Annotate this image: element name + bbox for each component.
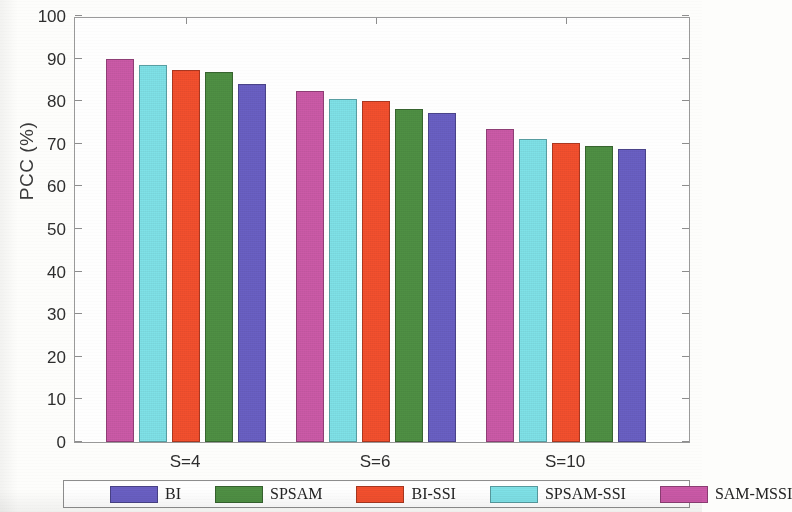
chart-legend: BISPSAMBI-SSISPSAM-SSISAM-MSSI xyxy=(63,480,690,508)
y-tick-right-10 xyxy=(682,398,689,399)
legend-label-sam-mssi: SAM-MSSI xyxy=(715,485,792,503)
plot-area xyxy=(74,17,690,443)
legend-swatch-spsam-ssi-icon xyxy=(490,486,538,503)
y-tick-80 xyxy=(75,100,82,101)
y-tick-label-10: 10 xyxy=(26,390,66,410)
y-tick-right-70 xyxy=(682,143,689,144)
bar-sam-mssi-S4 xyxy=(106,59,134,442)
x-group-label-S6: S=6 xyxy=(360,452,391,472)
y-tick-label-60: 60 xyxy=(26,177,66,197)
y-tick-90 xyxy=(75,58,82,59)
y-tick-label-20: 20 xyxy=(26,348,66,368)
legend-label-spsam-ssi: SPSAM-SSI xyxy=(545,485,626,503)
bar-spsam-S4 xyxy=(205,72,233,442)
y-tick-100 xyxy=(75,15,82,16)
y-tick-label-80: 80 xyxy=(26,92,66,112)
legend-swatch-bi-icon xyxy=(110,486,158,503)
x-tick-top-S4 xyxy=(186,18,187,24)
y-tick-right-90 xyxy=(682,58,689,59)
legend-label-bi-ssi: BI-SSI xyxy=(411,485,455,503)
x-tick-top-S10 xyxy=(566,18,567,24)
y-tick-40 xyxy=(75,271,82,272)
y-tick-60 xyxy=(75,185,82,186)
bar-bi-S6 xyxy=(428,113,456,442)
y-tick-10 xyxy=(75,398,82,399)
legend-item-sam-mssi[interactable]: SAM-MSSI xyxy=(660,485,792,503)
y-tick-label-50: 50 xyxy=(26,220,66,240)
legend-swatch-bi-ssi-icon xyxy=(356,486,404,503)
legend-swatch-sam-mssi-icon xyxy=(660,486,708,503)
bar-bi-ssi-S10 xyxy=(552,143,580,442)
y-tick-right-100 xyxy=(682,15,689,16)
bar-spsam-S6 xyxy=(395,109,423,442)
y-tick-right-60 xyxy=(682,185,689,186)
y-tick-30 xyxy=(75,313,82,314)
bar-sam-mssi-S10 xyxy=(486,129,514,442)
bar-sam-mssi-S6 xyxy=(296,91,324,442)
legend-swatch-spsam-icon xyxy=(215,486,263,503)
x-group-label-S10: S=10 xyxy=(545,452,585,472)
y-tick-label-40: 40 xyxy=(26,263,66,283)
y-tick-20 xyxy=(75,356,82,357)
bar-bi-ssi-S6 xyxy=(362,101,390,442)
legend-label-bi: BI xyxy=(165,485,181,503)
bar-spsam-S10 xyxy=(585,146,613,442)
legend-item-spsam-ssi[interactable]: SPSAM-SSI xyxy=(490,485,626,503)
legend-item-bi[interactable]: BI xyxy=(110,485,181,503)
bar-spsam-ssi-S10 xyxy=(519,139,547,442)
y-tick-label-30: 30 xyxy=(26,305,66,325)
y-tick-right-0 xyxy=(682,441,689,442)
y-tick-50 xyxy=(75,228,82,229)
y-tick-right-80 xyxy=(682,100,689,101)
legend-item-bi-ssi[interactable]: BI-SSI xyxy=(356,485,455,503)
y-tick-right-30 xyxy=(682,313,689,314)
y-tick-label-90: 90 xyxy=(26,50,66,70)
y-tick-label-100: 100 xyxy=(26,7,66,27)
x-group-label-S4: S=4 xyxy=(170,452,201,472)
y-tick-0 xyxy=(75,441,82,442)
y-tick-right-20 xyxy=(682,356,689,357)
y-tick-right-40 xyxy=(682,271,689,272)
x-tick-top-S6 xyxy=(376,18,377,24)
bar-bi-S4 xyxy=(238,84,266,442)
bar-spsam-ssi-S6 xyxy=(329,99,357,442)
bar-spsam-ssi-S4 xyxy=(139,65,167,442)
legend-item-spsam[interactable]: SPSAM xyxy=(215,485,322,503)
y-tick-right-50 xyxy=(682,228,689,229)
y-tick-label-70: 70 xyxy=(26,135,66,155)
bar-bi-ssi-S4 xyxy=(172,70,200,442)
y-tick-70 xyxy=(75,143,82,144)
bar-bi-S10 xyxy=(618,149,646,442)
y-tick-label-0: 0 xyxy=(26,433,66,453)
legend-label-spsam: SPSAM xyxy=(270,485,322,503)
